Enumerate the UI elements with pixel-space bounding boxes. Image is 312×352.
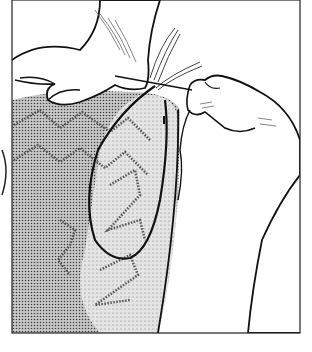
- knitting-illustration: [0, 0, 312, 352]
- left-hand: [12, 0, 160, 105]
- edge-curve: [2, 150, 6, 195]
